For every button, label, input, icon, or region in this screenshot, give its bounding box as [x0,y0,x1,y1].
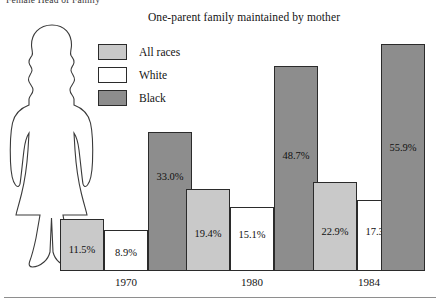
bar-value-1970-black: 33.0% [149,171,191,182]
x-axis-label-1970: 1970 [60,276,192,288]
bar-1980-black: 48.7% [274,66,318,271]
bar-1980-all-races: 19.4% [186,189,230,271]
bar-value-1970-white: 8.9% [105,247,147,258]
bar-value-1980-white: 15.1% [231,229,273,240]
bar-value-1980-black: 48.7% [275,150,317,161]
bar-1970-all-races: 11.5% [60,219,104,271]
bar-1984-black: 55.9% [381,44,425,271]
bars-plot-area: 11.5% 8.9% 33.0% 1970 19.4% 15.1% 48.7% … [0,0,440,280]
x-axis-label-1980: 1980 [186,276,318,288]
bar-1984-all-races: 22.9% [313,182,357,271]
bottom-rule [4,297,436,298]
bar-1970-white: 8.9% [104,230,148,271]
bar-1980-white: 15.1% [230,207,274,271]
x-axis-label-1984: 1984 [313,276,425,288]
bar-value-1984-black: 55.9% [382,142,424,153]
bar-value-1984-all-races: 22.9% [314,226,356,237]
chart-page: Female Head of Family One-parent family … [0,0,440,308]
bar-value-1980-all-races: 19.4% [187,228,229,239]
bar-value-1970-all-races: 11.5% [61,244,103,255]
